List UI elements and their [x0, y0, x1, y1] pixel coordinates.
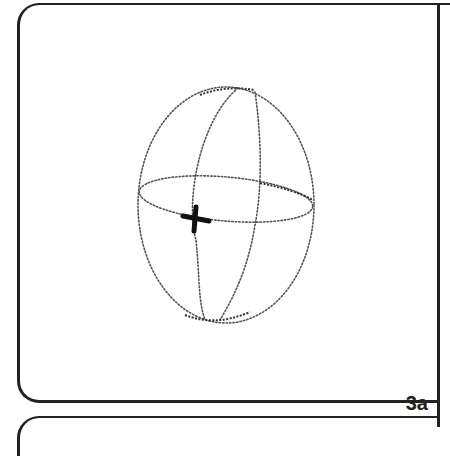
- cross-marker: [183, 207, 209, 231]
- meridian-right: [220, 92, 260, 320]
- meridian-left: [192, 88, 238, 320]
- ellipsoid-outline: [138, 87, 314, 323]
- equator-ring: [137, 170, 314, 229]
- panel-label: 3a: [406, 392, 428, 415]
